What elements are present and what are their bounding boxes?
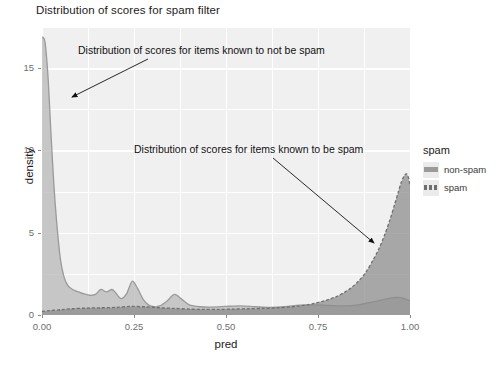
- y-tick-label: 0: [4, 309, 34, 320]
- density-line-non-spam: [42, 37, 410, 308]
- plot-panel: [42, 27, 410, 315]
- y-tick-mark: [38, 150, 41, 151]
- y-tick-mark: [38, 68, 41, 69]
- chart-root: Distribution of scores for spam filter 0…: [0, 0, 503, 370]
- y-tick-label: 5: [4, 227, 34, 238]
- y-axis-title: density: [23, 121, 35, 211]
- y-tick-mark: [38, 233, 41, 234]
- legend-label: non-spam: [444, 164, 486, 175]
- x-tick-mark: [42, 315, 43, 318]
- legend-item-spam[interactable]: spam: [423, 179, 501, 196]
- x-tick-label: 1.00: [390, 321, 430, 332]
- y-tick-label: 15: [4, 62, 34, 73]
- density-curves: [42, 27, 410, 315]
- x-tick-label: 0.75: [298, 321, 338, 332]
- x-tick-mark: [410, 315, 411, 318]
- page-title: Distribution of scores for spam filter: [36, 4, 220, 16]
- density-area-non-spam: [42, 37, 410, 315]
- x-tick-mark: [226, 315, 227, 318]
- legend: spam non-spamspam: [423, 144, 501, 197]
- x-tick-mark: [134, 315, 135, 318]
- x-tick-label: 0.25: [114, 321, 154, 332]
- y-tick-mark: [38, 315, 41, 316]
- legend-item-non-spam[interactable]: non-spam: [423, 161, 501, 178]
- annotation-non-spam: Distribution of scores for items known t…: [78, 44, 325, 56]
- legend-items: non-spamspam: [423, 161, 501, 196]
- legend-swatch-icon: [423, 162, 439, 178]
- x-tick-label: 0.00: [22, 321, 62, 332]
- legend-label: spam: [444, 182, 467, 193]
- legend-swatch-icon: [423, 180, 439, 196]
- legend-title: spam: [423, 144, 501, 156]
- x-tick-label: 0.50: [206, 321, 246, 332]
- annotation-spam: Distribution of scores for items known t…: [134, 143, 363, 155]
- x-axis-title: pred: [0, 338, 452, 350]
- x-tick-mark: [318, 315, 319, 318]
